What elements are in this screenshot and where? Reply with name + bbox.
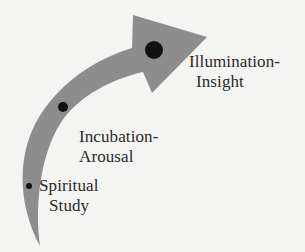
stage-label-line: Study — [39, 196, 98, 216]
stage-label-line: Illumination- — [189, 52, 280, 72]
creative-process-diagram: Illumination- Insight Incubation- Arousa… — [0, 0, 305, 252]
stage-label-illumination-insight: Illumination- Insight — [189, 52, 280, 92]
stage-label-incubation-arousal: Incubation- Arousal — [79, 127, 158, 167]
stage-label-spiritual-study: Spiritual Study — [39, 176, 98, 216]
stage-label-line: Insight — [189, 72, 280, 92]
stage-dot-illumination-insight — [145, 41, 163, 59]
stage-label-line: Spiritual — [39, 176, 98, 196]
stage-dot-spiritual-study — [26, 183, 32, 189]
stage-label-line: Arousal — [79, 147, 158, 167]
stage-dot-incubation-arousal — [58, 102, 68, 112]
stage-label-line: Incubation- — [79, 127, 158, 147]
